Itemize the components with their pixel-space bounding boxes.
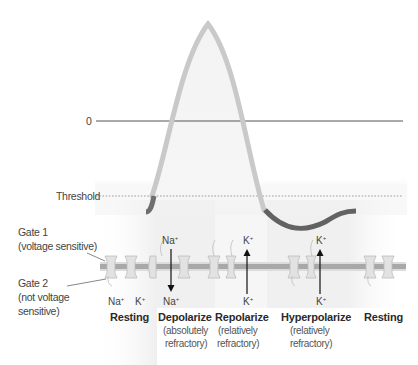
gate2-label: Gate 2 bbox=[18, 277, 48, 289]
zero-label: 0 bbox=[86, 115, 92, 127]
ion-na-depol-top: Na+ bbox=[162, 235, 178, 246]
stage-hyperpolarize-sub2: refractory) bbox=[290, 338, 332, 350]
stage-resting-left: Resting bbox=[110, 311, 149, 323]
stage-depolarize-sub1: (absolutely bbox=[163, 325, 208, 337]
gate2-sublabel-1: (not voltage bbox=[18, 291, 69, 303]
ion-k-hyper-top: K+ bbox=[316, 235, 326, 246]
stage-repolarize-sub1: (relatively bbox=[218, 325, 258, 337]
ion-na-depol-bottom: Na+ bbox=[163, 296, 179, 307]
action-potential-diagram: 0 Threshold Gate 1 (voltage sensitive) G… bbox=[0, 0, 418, 365]
ion-k-repol-bottom: K+ bbox=[243, 296, 253, 307]
stage-repolarize-sub2: refractory) bbox=[217, 338, 259, 350]
action-potential-peak-fill bbox=[150, 24, 262, 200]
ion-k-resting: K+ bbox=[135, 296, 145, 307]
gate1-label: Gate 1 bbox=[18, 226, 48, 238]
ion-na-resting: Na+ bbox=[108, 296, 124, 307]
cell-membrane bbox=[100, 262, 406, 271]
gate1-sublabel: (voltage sensitive) bbox=[18, 240, 97, 252]
ion-k-repol-top: K+ bbox=[243, 235, 253, 246]
ion-k-hyper-bottom: K+ bbox=[316, 296, 326, 307]
stage-depolarize-sub2: refractory) bbox=[165, 338, 207, 350]
stage-depolarize: Depolarize bbox=[158, 311, 212, 323]
threshold-label: Threshold bbox=[56, 190, 100, 202]
stage-hyperpolarize: Hyperpolarize bbox=[281, 311, 351, 323]
stage-resting-right: Resting bbox=[364, 311, 403, 323]
stage-repolarize: Repolarize bbox=[215, 311, 269, 323]
stage-hyperpolarize-sub1: (relatively bbox=[290, 325, 330, 337]
gate2-sublabel-2: sensitive) bbox=[18, 305, 59, 317]
